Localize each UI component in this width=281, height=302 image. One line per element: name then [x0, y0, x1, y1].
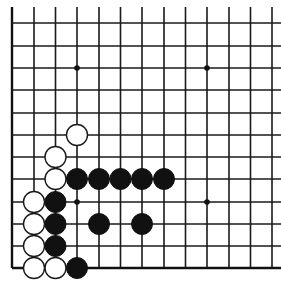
white-stone — [67, 125, 88, 146]
black-stone — [132, 169, 153, 190]
white-stone — [45, 147, 66, 168]
black-stone — [154, 169, 175, 190]
go-board — [0, 0, 281, 302]
white-stone — [24, 236, 45, 257]
black-stone — [45, 236, 66, 257]
black-stone — [67, 258, 88, 279]
white-stone — [45, 258, 66, 279]
white-stone — [45, 169, 66, 190]
white-stone — [24, 214, 45, 235]
black-stone — [45, 214, 66, 235]
star-point-icon — [74, 65, 80, 71]
star-point-icon — [74, 199, 80, 205]
black-stone — [110, 169, 131, 190]
star-point-icon — [204, 65, 210, 71]
black-stone — [132, 214, 153, 235]
black-stone — [45, 192, 66, 213]
star-point-icon — [204, 199, 210, 205]
white-stone — [24, 192, 45, 213]
black-stone — [67, 169, 88, 190]
white-stone — [24, 258, 45, 279]
black-stone — [89, 214, 110, 235]
black-stone — [89, 169, 110, 190]
